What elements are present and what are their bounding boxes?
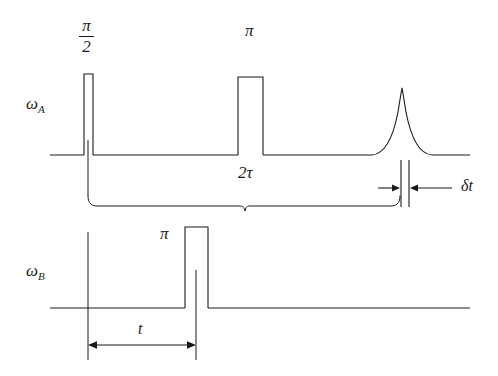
pulse-sequence-figure: ωA ωB π 2 π π 2τ δt t xyxy=(0,0,498,376)
pi-over-2-denominator: 2 xyxy=(79,37,94,56)
omega-b-symbol: ω xyxy=(26,261,38,280)
pulse-label-pi-over-2: π 2 xyxy=(79,17,94,57)
pulse-label-pi-omega-b: π xyxy=(160,225,169,242)
pi-over-2-numerator: π xyxy=(79,17,94,36)
annotation-label-delta-t: δt xyxy=(461,178,473,194)
annotation-label-two-tau: 2τ xyxy=(238,164,253,181)
omega-a-subscript: A xyxy=(38,103,45,115)
pulse-label-pi-omega-a: π xyxy=(245,22,254,39)
omega-b-trace xyxy=(50,227,470,308)
delta-t-marker-lines xyxy=(401,160,409,207)
channel-label-omega-a: ωA xyxy=(26,95,45,115)
annotation-label-t: t xyxy=(138,321,142,337)
omega-b-subscript: B xyxy=(38,270,45,282)
omega-a-symbol: ω xyxy=(26,94,38,113)
delta-t-arrows xyxy=(378,185,452,192)
channel-label-omega-b: ωB xyxy=(26,262,45,282)
two-tau-brace xyxy=(88,196,400,211)
pulse-sequence-svg xyxy=(0,0,498,376)
t-double-arrow xyxy=(88,341,196,349)
omega-a-trace xyxy=(50,74,470,155)
